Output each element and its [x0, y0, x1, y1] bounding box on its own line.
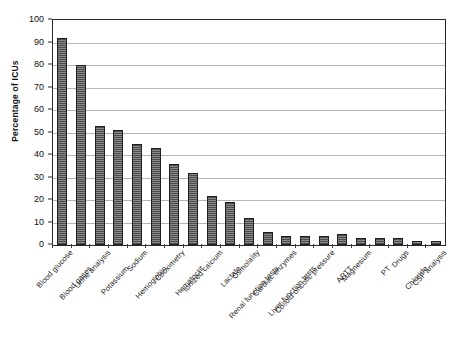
bar-slot [202, 20, 221, 245]
bar-slot [426, 20, 445, 245]
x-axis-label: Ionized calcium [181, 248, 224, 294]
bar [95, 126, 105, 245]
bar [207, 196, 217, 246]
bar-slot [296, 20, 315, 245]
bar-slot [277, 20, 296, 245]
y-axis-tick-label: 10 [34, 216, 48, 227]
bar [76, 65, 86, 245]
bar-slot [165, 20, 184, 245]
x-axis-label: Drugs [390, 248, 411, 269]
bar [57, 38, 67, 245]
y-axis-tick: 80 [34, 59, 52, 70]
bar-slot [146, 20, 165, 245]
y-axis-tick: 60 [34, 104, 52, 115]
bar [113, 130, 123, 245]
bar-slot [90, 20, 109, 245]
bar-slot [72, 20, 91, 245]
bar-slot [184, 20, 203, 245]
y-axis-tick: 100 [29, 14, 52, 25]
y-axis-tick-label: 0 [39, 239, 48, 250]
y-axis-tick: 10 [34, 216, 52, 227]
y-axis-tick: 0 [39, 239, 52, 250]
y-axis-tick: 40 [34, 149, 52, 160]
x-axis-label: CSF analysis [410, 248, 448, 288]
y-axis-tick: 50 [34, 126, 52, 137]
bar-slot [408, 20, 427, 245]
bar-series [53, 20, 445, 245]
y-axis-tick-label: 70 [34, 81, 48, 92]
y-axis-tick-label: 60 [34, 104, 48, 115]
bar-slot [389, 20, 408, 245]
bar-slot [221, 20, 240, 245]
bar-slot [370, 20, 389, 245]
bar-slot [258, 20, 277, 245]
y-axis-tick-label: 50 [34, 126, 48, 137]
bar-slot [352, 20, 371, 245]
bar-slot [109, 20, 128, 245]
bar-slot [240, 20, 259, 245]
y-axis-tick-group: 0102030405060708090100 [0, 19, 52, 244]
y-axis-tick-label: 100 [29, 14, 48, 25]
x-axis-label-group: Blood glucoseBlood gasesUrine analysisPo… [52, 248, 444, 355]
bar [188, 173, 198, 245]
y-axis-tick-label: 40 [34, 149, 48, 160]
x-axis-label: Cooximetry [153, 248, 186, 283]
plot-area [52, 19, 446, 246]
x-axis-label: Sodium [125, 248, 150, 273]
bar [169, 164, 179, 245]
y-axis-tick: 30 [34, 171, 52, 182]
bar [244, 218, 254, 245]
bar [132, 144, 142, 245]
y-axis-tick-label: 90 [34, 36, 48, 47]
y-axis-tick-label: 80 [34, 59, 48, 70]
y-axis-tick-label: 30 [34, 171, 48, 182]
bar-chart-figure: Percentage of ICUs 010203040506070809010… [0, 0, 467, 355]
y-axis-tick: 20 [34, 194, 52, 205]
bar [225, 202, 235, 245]
bar [151, 148, 161, 245]
y-axis-tick-label: 20 [34, 194, 48, 205]
x-axis-label: PT [379, 264, 392, 277]
bar-slot [314, 20, 333, 245]
y-axis-tick: 70 [34, 81, 52, 92]
bar-slot [128, 20, 147, 245]
bar [263, 232, 273, 246]
y-axis-tick: 90 [34, 36, 52, 47]
bar-slot [53, 20, 72, 245]
bar-slot [333, 20, 352, 245]
